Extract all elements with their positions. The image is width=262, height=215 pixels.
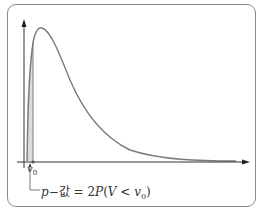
y-axis-arrow-icon [22,19,27,27]
density-curve [27,28,236,161]
x-axis-arrow-icon [242,160,250,165]
v0-label: v0 [27,163,37,177]
p-value-formula: p−값 = 2P(V < v0) [41,182,151,201]
